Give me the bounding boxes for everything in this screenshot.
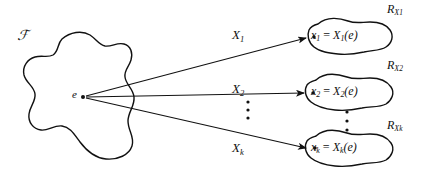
range-equation-3-rel: = bbox=[323, 140, 330, 154]
range-set-label-3: RXk bbox=[387, 119, 403, 133]
ellipsis-dot-center bbox=[246, 100, 249, 103]
ellipsis-dot-center bbox=[246, 116, 249, 119]
range-equation-1-lhs-sub: 1 bbox=[316, 34, 320, 43]
mapping-diagram-figure: ℱ e X1 X2 Xk x1 = X1(e) x2 = X2(e) xk = … bbox=[0, 0, 427, 181]
range-equation-3-rhs: X bbox=[333, 140, 340, 154]
ellipsis-dot-right bbox=[345, 128, 348, 131]
range-equation-1-arg: (e) bbox=[344, 28, 357, 42]
range-equation-3-arg: (e) bbox=[343, 140, 356, 154]
ellipsis-dot-right bbox=[345, 110, 348, 113]
mapping-label-1: X1 bbox=[232, 28, 244, 43]
mapping-label-3-sub: k bbox=[240, 147, 244, 157]
ellipsis-dot-right bbox=[345, 119, 348, 122]
range-equation-2: x2 = X2(e) bbox=[311, 85, 358, 99]
range-set-label-3-sub2: k bbox=[399, 124, 402, 133]
sample-space-outline bbox=[24, 32, 134, 159]
diagram-canvas bbox=[0, 0, 427, 181]
outcome-point-label: e bbox=[72, 89, 77, 100]
range-set-label-2: RX2 bbox=[387, 59, 403, 73]
mapping-arrow-3 bbox=[86, 98, 306, 148]
range-equation-2-lhs-sub: 2 bbox=[316, 90, 320, 99]
range-equation-3-lhs-sub: k bbox=[316, 146, 320, 155]
mapping-label-2: X2 bbox=[232, 82, 244, 97]
sample-space-label: ℱ bbox=[17, 28, 29, 42]
range-set-label-2-sub2: 2 bbox=[399, 64, 403, 73]
range-equation-2-arg: (e) bbox=[344, 84, 357, 98]
range-equation-1-rel: = bbox=[323, 28, 330, 42]
outcome-point-dot bbox=[81, 95, 85, 99]
mapping-label-2-base: X bbox=[232, 81, 240, 96]
mapping-label-1-sub: 1 bbox=[240, 34, 244, 44]
range-equation-1: x1 = X1(e) bbox=[311, 29, 358, 43]
ellipsis-dot-center bbox=[246, 108, 249, 111]
range-set-label-1: RX1 bbox=[387, 3, 403, 17]
mapping-label-2-sub: 2 bbox=[240, 88, 244, 98]
mapping-label-3-base: X bbox=[232, 140, 240, 155]
range-equation-3: xk = Xk(e) bbox=[311, 141, 357, 155]
mapping-label-3: Xk bbox=[232, 141, 244, 156]
mapping-arrow-2 bbox=[86, 93, 304, 97]
range-equation-2-rel: = bbox=[323, 84, 330, 98]
mapping-arrow-1 bbox=[86, 38, 306, 96]
range-set-label-1-sub2: 1 bbox=[399, 8, 403, 17]
mapping-label-1-base: X bbox=[232, 27, 240, 42]
